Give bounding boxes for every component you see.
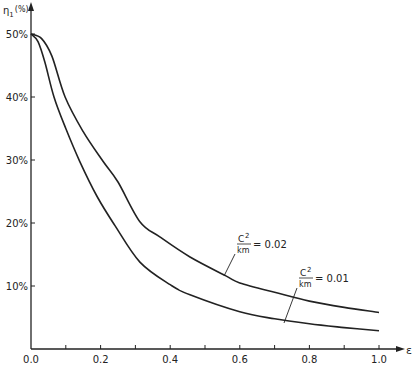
label-numerator: C xyxy=(238,234,244,244)
y-tick-label: 20% xyxy=(6,218,28,229)
y-axis-label-unit: (%) xyxy=(15,5,29,14)
y-axis-label: η1(%) xyxy=(3,5,29,19)
leader-line xyxy=(224,254,235,276)
x-ticks: 0.00.20.40.60.81.0 xyxy=(23,345,387,365)
series-annotations: C2km= 0.02C2km= 0.01 xyxy=(224,232,349,323)
x-axis-arrow-icon xyxy=(396,346,405,352)
y-tick-label: 30% xyxy=(6,155,28,166)
label-value: = 0.02 xyxy=(253,239,287,250)
x-tick-label: 0.0 xyxy=(23,354,39,365)
x-tick-label: 0.6 xyxy=(232,354,248,365)
leader-line xyxy=(284,288,297,323)
x-axis-label: ε xyxy=(406,344,412,357)
y-tick-label: 40% xyxy=(6,92,28,103)
y-tick-label: 10% xyxy=(6,281,28,292)
label-denominator: km xyxy=(237,246,250,255)
y-tick-label: 50% xyxy=(6,29,28,40)
series-label: C2km= 0.02 xyxy=(224,232,287,276)
x-tick-label: 0.8 xyxy=(301,354,317,365)
series-label: C2km= 0.01 xyxy=(284,266,349,323)
x-tick-label: 1.0 xyxy=(371,354,387,365)
chart: 0.00.20.40.60.81.0 10%20%30%40%50% η1(%)… xyxy=(0,0,414,368)
x-tick-label: 0.4 xyxy=(162,354,178,365)
label-value: = 0.01 xyxy=(315,273,349,284)
axes xyxy=(28,2,405,352)
series-curve-0 xyxy=(31,34,379,313)
curves xyxy=(31,34,379,331)
y-axis-label-sub: 1 xyxy=(9,11,13,19)
label-superscript: 2 xyxy=(307,266,311,274)
y-axis-arrow-icon xyxy=(28,2,34,11)
label-superscript: 2 xyxy=(245,232,249,240)
x-tick-label: 0.2 xyxy=(93,354,109,365)
series-curve-1 xyxy=(31,34,379,331)
label-numerator: C xyxy=(300,268,306,278)
label-denominator: km xyxy=(299,280,312,289)
